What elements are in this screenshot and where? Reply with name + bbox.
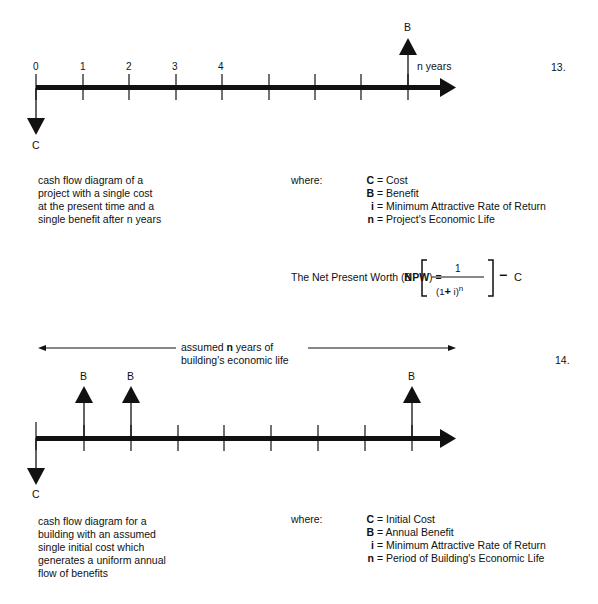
n-years-label: n years xyxy=(417,60,451,73)
figure-number-13: 13. xyxy=(551,61,566,74)
tick-label-4: 4 xyxy=(218,60,224,73)
where-label-14: where: xyxy=(291,513,323,526)
definition-row: n = Period of Building's Economic Life xyxy=(362,552,546,565)
where-label-13: where: xyxy=(291,174,323,187)
cost-label-14: C xyxy=(32,488,40,501)
tick-label-0: 0 xyxy=(33,60,39,73)
diagram-14-description: cash flow diagram for a building with an… xyxy=(38,515,166,580)
tick-label-3: 3 xyxy=(172,60,178,73)
diagram-13-description: cash flow diagram of a project with a si… xyxy=(38,174,161,226)
figure-number-14: 14. xyxy=(555,354,570,367)
formula-denominator: (1+ i)n xyxy=(436,282,463,298)
definition-row: i = Minimum Attractive Rate of Return xyxy=(362,539,546,552)
definition-row: n = Project's Economic Life xyxy=(362,213,546,226)
diagram-14-definitions: C = Initial Cost B = Annual Benefit i = … xyxy=(362,513,546,565)
tick-label-1: 1 xyxy=(80,60,86,73)
definition-row: B = Benefit xyxy=(362,187,546,200)
formula-minus: − xyxy=(499,269,507,282)
definition-row: C = Initial Cost xyxy=(362,513,546,526)
formula-subtrahend: C xyxy=(514,271,522,284)
definition-row: i = Minimum Attractive Rate of Return xyxy=(362,200,546,213)
diagram-13-definitions: C = Cost B = Benefit i = Minimum Attract… xyxy=(362,174,546,226)
tick-label-2: 2 xyxy=(126,60,132,73)
npw-formula-label: The Net Present Worth (NPW) = xyxy=(291,271,442,284)
cost-label: C xyxy=(32,139,40,152)
definition-row: B = Annual Benefit xyxy=(362,526,546,539)
benefit-label-1: B xyxy=(80,370,87,383)
economic-life-span-label: assumed n years of building's economic l… xyxy=(181,341,289,367)
formula-multiplier: B xyxy=(404,271,411,284)
definition-row: C = Cost xyxy=(362,174,546,187)
benefit-label: B xyxy=(404,21,411,34)
benefit-label-n: B xyxy=(408,370,415,383)
benefit-label-2: B xyxy=(127,370,134,383)
formula-numerator: 1 xyxy=(455,262,461,275)
